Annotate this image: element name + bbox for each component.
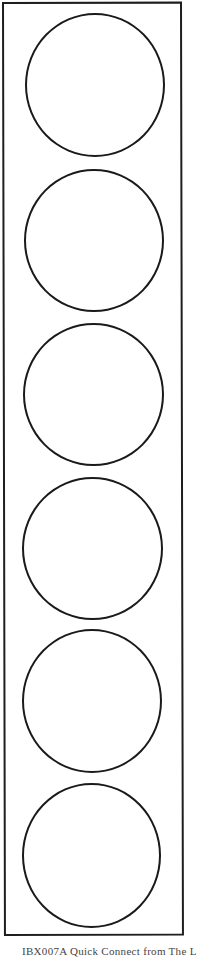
label-circle-1 (25, 13, 165, 157)
label-circle-5 (22, 629, 162, 773)
footer-caption: IBX007A Quick Connect from The L (22, 944, 192, 958)
label-circle-2 (24, 169, 164, 312)
label-circle-3 (23, 323, 164, 466)
label-circle-6 (22, 783, 161, 928)
label-circle-4 (22, 477, 163, 620)
